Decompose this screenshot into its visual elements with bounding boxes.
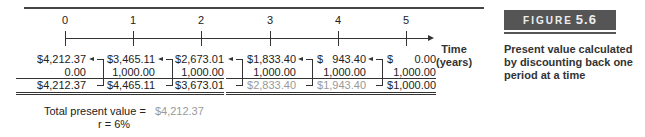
period-total: $4,212.37 [16, 79, 86, 95]
discount-connector [306, 59, 313, 86]
period-label: 5 [396, 14, 416, 26]
period-label: 1 [123, 14, 143, 26]
top-rule [24, 7, 484, 9]
pv-value: $2,673.01 [154, 53, 224, 66]
tick-1 [133, 31, 134, 46]
figure-label-band: FIGURE5.6 [504, 10, 616, 30]
arrow-left-icon [89, 57, 94, 61]
tick-2 [201, 31, 202, 46]
interest-rate: r = 6% [98, 118, 130, 130]
cash-flow: 1,000.00 [85, 66, 155, 80]
period-total: $3,673.01 [154, 79, 224, 95]
total-label: Total present value = [44, 105, 146, 117]
period-total: $4,465.11 [85, 79, 155, 95]
discount-connector [166, 59, 173, 86]
tick-4 [338, 31, 339, 46]
tick-3 [270, 31, 271, 46]
arrow-left-icon [298, 57, 303, 61]
arrow-left-icon [368, 57, 373, 61]
arrow-left-icon [228, 57, 233, 61]
axis-arrow-icon [428, 35, 434, 41]
column-period-0: $4,212.37 0.00 $4,212.37 [16, 53, 86, 95]
figure-caption: Present value calculated by discounting … [504, 43, 634, 82]
time-axis-label: Time (years) [436, 43, 472, 69]
arrow-left-icon [158, 57, 163, 61]
figure-label: FIGURE [523, 15, 573, 26]
discount-connector [376, 59, 383, 86]
discount-connector [97, 59, 104, 86]
cash-flow: 0.00 [16, 66, 86, 80]
tick-5 [406, 31, 407, 46]
total-value: $4,212.37 [155, 105, 204, 117]
discount-connector [236, 59, 243, 86]
period-label: 2 [191, 14, 211, 26]
column-period-1: $3,465.11 1,000.00 $4,465.11 [85, 53, 155, 95]
tick-0 [65, 31, 66, 46]
cash-flow: 1,000.00 [154, 66, 224, 80]
pv-value: $3,465.11 [85, 53, 155, 66]
figure-rule [504, 32, 616, 34]
period-label: 3 [260, 14, 280, 26]
total-present-value: Total present value = $4,212.37 [44, 105, 204, 117]
period-label: 4 [328, 14, 348, 26]
figure-number: 5.6 [576, 12, 597, 27]
column-period-2: $2,673.01 1,000.00 $3,673.01 [154, 53, 224, 95]
timeline-axis [65, 38, 430, 39]
pv-value: $4,212.37 [16, 53, 86, 66]
period-label: 0 [55, 14, 75, 26]
